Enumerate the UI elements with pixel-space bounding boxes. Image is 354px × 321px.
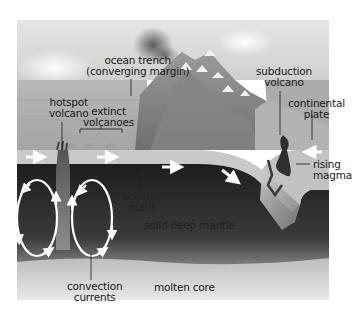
- label-oceanic-plate: oceanic plate: [122, 191, 161, 213]
- label-extinct-volcanoes: extinct volcanoes: [83, 106, 134, 128]
- label-convection-currents: convection currents: [67, 281, 122, 303]
- label-continental-plate: continental plate: [288, 98, 345, 120]
- label-molten-core: molten core: [154, 282, 215, 293]
- diagram-illustration: [0, 0, 354, 321]
- label-rising-magma: rising magma: [313, 159, 352, 181]
- label-ocean-trench: ocean trench (converging margin): [86, 55, 189, 77]
- plate-tectonics-diagram: ocean trench (converging margin) subduct…: [0, 0, 354, 321]
- label-subduction-volcano: subduction volcano: [256, 66, 312, 88]
- label-solid-deep-mantle: solid deep mantle: [144, 220, 235, 231]
